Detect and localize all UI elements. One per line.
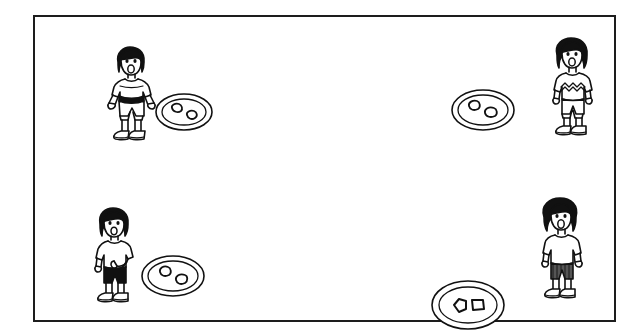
top-right-group [443, 35, 623, 160]
top-left-group [95, 41, 275, 161]
illustration-frame [33, 15, 616, 322]
child-top-right [541, 37, 603, 141]
bottom-right-group [425, 182, 615, 327]
illustration-canvas [0, 0, 643, 336]
child-bottom-left [83, 207, 143, 307]
plate-top-left [154, 90, 214, 134]
plate-top-right [450, 86, 516, 134]
plate-bottom-left [140, 252, 206, 300]
child-bottom-right [529, 198, 593, 304]
bottom-left-group [83, 205, 263, 330]
child-top-left [100, 46, 160, 146]
plate-bottom-right [430, 277, 506, 333]
